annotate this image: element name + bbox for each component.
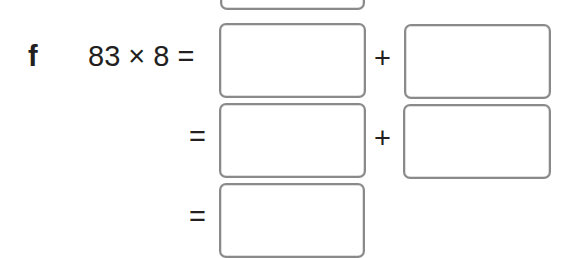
plus-sign-row1: + xyxy=(374,44,391,73)
equals-sign-row3: = xyxy=(189,202,206,231)
multiplication-expression: 83 × 8 = xyxy=(88,42,194,71)
exercise-label: f xyxy=(28,42,38,71)
plus-sign-row2: + xyxy=(374,124,391,153)
equals-sign-row2: = xyxy=(189,122,206,151)
previous-answer-box[interactable] xyxy=(220,0,365,10)
row3-answer-box-1[interactable] xyxy=(219,183,365,258)
row2-answer-box-1[interactable] xyxy=(219,103,366,178)
row2-answer-box-2[interactable] xyxy=(403,104,551,179)
row1-answer-box-2[interactable] xyxy=(404,24,551,99)
row1-answer-box-1[interactable] xyxy=(219,23,366,98)
